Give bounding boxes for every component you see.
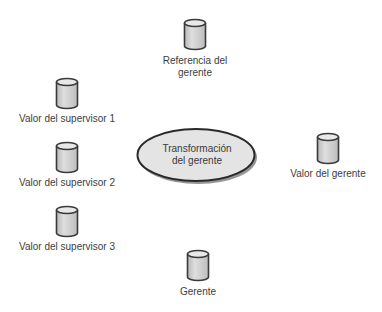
node-label: Gerente [158, 286, 238, 298]
center-label-line2: del gerente [172, 155, 222, 167]
node-label: Valor del supervisor 1 [12, 113, 122, 125]
node-label: Valor del gerente [288, 168, 368, 180]
node-label: Referencia del gerente [155, 55, 235, 79]
center-process-ellipse: Transformación del gerente [136, 127, 258, 185]
database-cylinder-icon [55, 77, 79, 110]
center-label-line1: Transformación [162, 143, 231, 155]
database-cylinder-icon [183, 18, 207, 51]
database-cylinder-icon [55, 141, 79, 174]
database-cylinder-icon [55, 205, 79, 238]
database-cylinder-icon [186, 249, 210, 282]
node-label: Valor del supervisor 3 [12, 241, 122, 253]
database-cylinder-icon [316, 132, 340, 165]
center-process-label: Transformación del gerente [136, 127, 258, 183]
node-label-line1: Referencia del [155, 55, 235, 67]
node-label-line2: gerente [155, 67, 235, 79]
node-label: Valor del supervisor 2 [12, 177, 122, 189]
